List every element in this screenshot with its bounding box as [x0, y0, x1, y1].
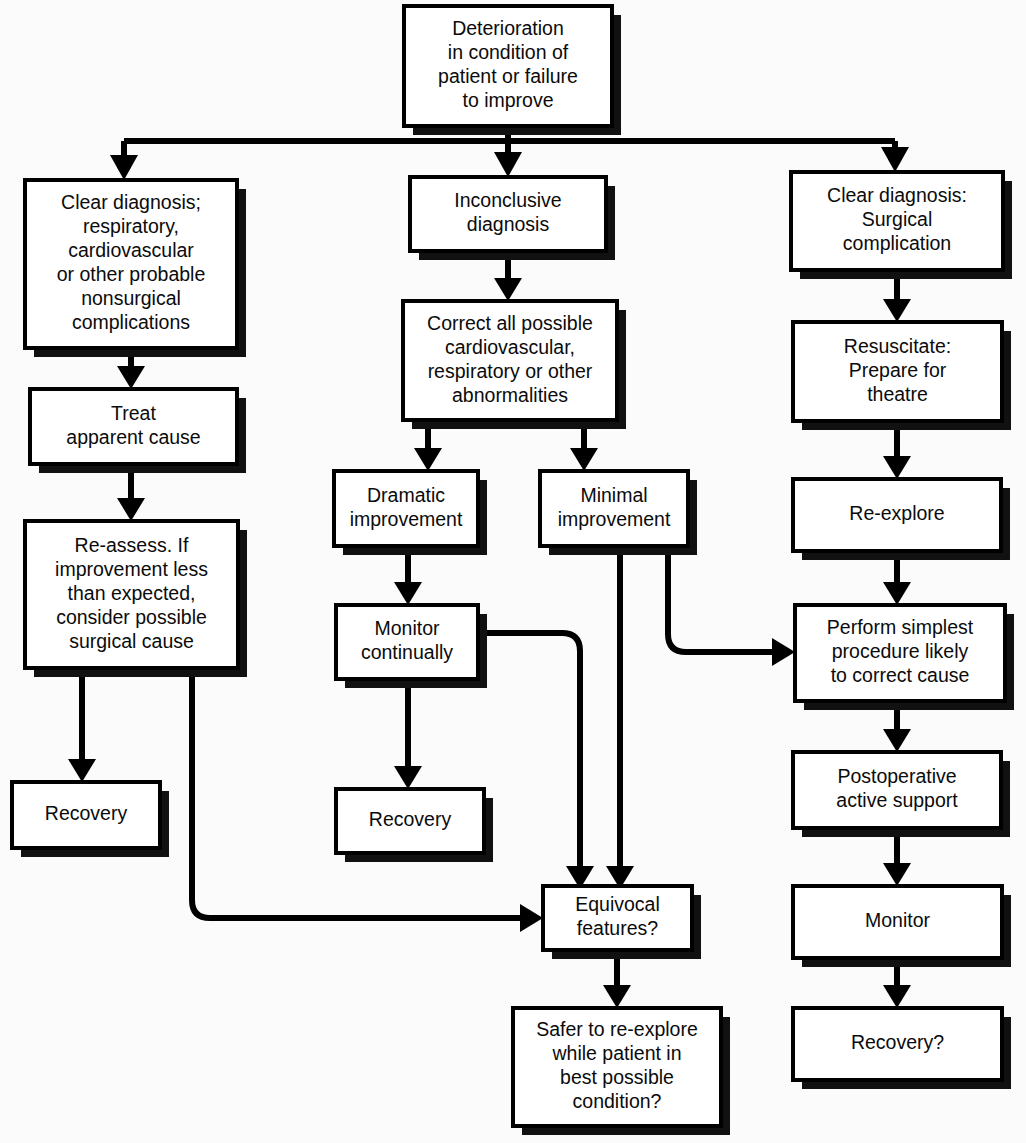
- node-label: Perform simplestprocedure likelyto corre…: [827, 616, 974, 686]
- edge-minimal-perform: [668, 546, 772, 652]
- node-root[interactable]: Deteriorationin condition ofpatient or f…: [404, 6, 621, 135]
- arrowhead-to-reexplore: [883, 456, 911, 479]
- node-monitor-right[interactable]: Monitor: [793, 886, 1011, 967]
- node-clear-surgical[interactable]: Clear diagnosis:Surgicalcomplication: [791, 172, 1012, 279]
- arrowhead-minimal-to-perform: [772, 638, 795, 666]
- node-label: Re-explore: [849, 502, 944, 524]
- arrowhead-to-treat-cause: [117, 366, 145, 389]
- flowchart-canvas: Deteriorationin condition ofpatient or f…: [0, 0, 1026, 1143]
- node-inconclusive[interactable]: Inconclusivediagnosis: [410, 177, 615, 260]
- node-label: Recovery: [369, 808, 452, 830]
- node-minimal[interactable]: Minimalimprovement: [540, 471, 697, 555]
- arrowhead-to-safer: [603, 985, 631, 1008]
- node-recovery-right[interactable]: Recovery?: [793, 1008, 1011, 1089]
- node-safer[interactable]: Safer to re-explorewhile patient inbest …: [513, 1008, 730, 1135]
- arrowhead-to-resuscitate: [883, 299, 911, 322]
- arrowhead-to-recovery-mid: [394, 766, 422, 789]
- arrowhead-reassess-to-equivocal: [520, 904, 543, 932]
- edge-monitor-equivocal: [478, 633, 580, 866]
- arrowhead-to-reassess: [117, 498, 145, 521]
- arrowhead-to-inconclusive: [494, 152, 522, 177]
- node-recovery-mid[interactable]: Recovery: [336, 789, 493, 862]
- node-dramatic[interactable]: Dramaticimprovement: [334, 471, 487, 555]
- arrowhead-to-dramatic: [414, 448, 442, 471]
- node-equivocal[interactable]: Equivocalfeatures?: [543, 886, 701, 959]
- arrowhead-to-correct-all: [494, 278, 522, 301]
- arrowhead-to-recovery-left: [68, 759, 96, 782]
- node-correct-all[interactable]: Correct all possiblecardiovascular,respi…: [403, 301, 626, 429]
- arrowhead-to-postoperative: [883, 729, 911, 752]
- node-resuscitate[interactable]: Resuscitate:Prepare fortheatre: [793, 322, 1011, 430]
- node-recovery-left[interactable]: Recovery: [12, 782, 169, 857]
- arrowhead-to-clear-nonsurgical: [110, 155, 138, 180]
- node-clear-nonsurgical[interactable]: Clear diagnosis;respiratory,cardiovascul…: [25, 180, 246, 357]
- arrowhead-to-monitor-continually: [394, 582, 422, 605]
- node-perform-simplest[interactable]: Perform simplestprocedure likelyto corre…: [795, 605, 1014, 710]
- node-reexplore[interactable]: Re-explore: [793, 479, 1010, 560]
- node-monitor-continually[interactable]: Monitorcontinually: [336, 605, 487, 688]
- arrowhead-to-recovery-right: [883, 985, 911, 1008]
- node-label: Recovery: [45, 802, 128, 824]
- node-postoperative[interactable]: Postoperativeactive support: [793, 752, 1010, 837]
- flowchart-svg: Deteriorationin condition ofpatient or f…: [0, 0, 1026, 1143]
- arrowhead-to-minimal: [570, 448, 598, 471]
- arrowhead-to-clear-surgical: [881, 147, 909, 172]
- node-label: Re-assess. Ifimprovement lessthan expect…: [55, 534, 208, 652]
- node-label: Monitor: [865, 909, 931, 931]
- node-treat-cause[interactable]: Treatapparent cause: [30, 389, 246, 473]
- node-label: Recovery?: [851, 1031, 944, 1053]
- arrowhead-to-perform-simplest: [883, 582, 911, 605]
- node-reassess[interactable]: Re-assess. Ifimprovement lessthan expect…: [25, 521, 247, 677]
- node-layer: Deteriorationin condition ofpatient or f…: [12, 6, 1014, 1135]
- arrowhead-to-monitor-right: [883, 863, 911, 886]
